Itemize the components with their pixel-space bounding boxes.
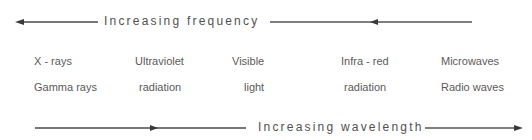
band-line1: X - rays (34, 55, 72, 67)
band-line1: Ultraviolet (135, 55, 184, 67)
band-line1: Infra - red (341, 55, 389, 67)
arrows-layer (0, 0, 532, 140)
band-line2: Radio waves (441, 81, 504, 93)
band-line1: Visible (232, 55, 264, 67)
arrowhead-left-icon (370, 19, 378, 25)
band-line2: light (244, 81, 264, 93)
band-line1: Microwaves (441, 55, 499, 67)
band-line2: Gamma rays (34, 81, 97, 93)
band-line2: radiation (344, 81, 386, 93)
wavelength-axis-label: Increasing wavelength (258, 120, 424, 134)
band-line2: radiation (139, 81, 181, 93)
arrowhead-right-icon (514, 125, 523, 131)
arrowhead-left-icon (15, 19, 24, 25)
frequency-axis-label: Increasing frequency (104, 14, 259, 28)
arrowhead-right-icon (150, 125, 158, 131)
